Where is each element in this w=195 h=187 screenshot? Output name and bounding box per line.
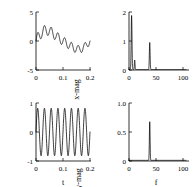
y-time-ylabel-0: 0 — [30, 129, 34, 137]
panel-x-spectrum: 2 1 0 0 50 100 x-mag — [97, 0, 195, 93]
x-time-ylabel-5: 5 — [30, 9, 34, 17]
y-time-xlabel-01: 0.1 — [59, 165, 68, 173]
x-spec-ylabel-1: 1 — [123, 38, 127, 46]
y-spec-xlabel-100: 100 — [178, 165, 189, 173]
x-spec-xlabel-100: 100 — [178, 74, 189, 82]
y-time-ylabel-neg1: -1 — [27, 158, 33, 166]
y-time-xlabel-0: 0 — [34, 165, 38, 173]
y-spec-ylabel-10: 1.0 — [117, 100, 126, 108]
panel-x-time: 5 0 -5 0 0.1 0.2 x — [0, 0, 97, 93]
x-spec-xlabel-0: 0 — [127, 74, 131, 82]
y-spec-xlabel-50: 50 — [153, 165, 161, 173]
y-spectrum-plot: 1.0 0.5 0 0 50 100 y-mag f — [97, 93, 195, 187]
x-time-waveform — [36, 26, 90, 53]
y-spec-ylabel-0: 0 — [123, 158, 127, 166]
y-spec-axis-title: y-mag — [74, 168, 83, 187]
x-spec-xlabel-50: 50 — [153, 74, 161, 82]
y-spec-xlabel-0: 0 — [127, 165, 131, 173]
panel-y-spectrum: 1.0 0.5 0 0 50 100 y-mag f — [97, 93, 195, 187]
x-spectrum-plot: 2 1 0 0 50 100 x-mag — [97, 0, 195, 93]
x-time-xlabel-02: 0.2 — [86, 74, 95, 82]
y-spec-ylabel-05: 0.5 — [117, 129, 126, 137]
x-time-ylabel-neg5: -5 — [27, 67, 33, 75]
x-spec-ylabel-2: 2 — [123, 9, 127, 17]
y-time-waveform — [36, 108, 90, 156]
y-time-xlabel-02: 0.2 — [86, 165, 95, 173]
x-spectrum-curve — [129, 16, 186, 70]
x-time-plot: 5 0 -5 0 0.1 0.2 x — [0, 0, 97, 93]
y-spectrum-curve — [129, 122, 186, 161]
x-spec-ylabel-0: 0 — [123, 67, 127, 75]
x-time-ylabel-0: 0 — [30, 38, 34, 46]
y-time-ylabel-1: 1 — [30, 100, 34, 108]
x-time-xlabel-0: 0 — [34, 74, 38, 82]
x-time-xlabel-01: 0.1 — [59, 74, 68, 82]
y-time-x-axis-title: t — [62, 178, 65, 187]
figure-canvas: 5 0 -5 0 0.1 0.2 x 2 1 0 0 50 1 — [0, 0, 195, 187]
y-spec-x-axis-title: f — [155, 178, 158, 187]
